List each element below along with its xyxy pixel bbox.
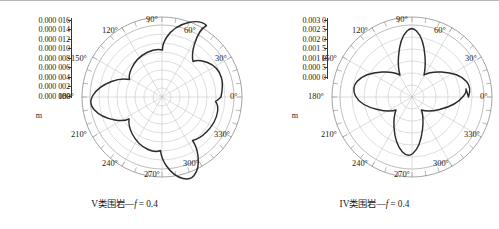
radial-axis-tickmark bbox=[68, 58, 71, 59]
radial-axis-tickmark bbox=[68, 77, 71, 78]
caption-variable-right: f bbox=[386, 199, 389, 209]
angle-label-330: 330° bbox=[464, 130, 480, 139]
angle-label-210: 210° bbox=[71, 130, 87, 139]
angle-label-0: 0° bbox=[480, 92, 488, 101]
radial-axis-tickmark bbox=[324, 29, 327, 30]
angle-label-210: 210° bbox=[321, 130, 337, 139]
radial-axis-spine bbox=[71, 18, 72, 98]
radial-axis-tickmark bbox=[68, 39, 71, 40]
angle-label-240: 240° bbox=[102, 159, 118, 168]
angle-label-300: 300° bbox=[433, 159, 449, 168]
radial-axis-tickmark bbox=[324, 77, 327, 78]
radial-axis-tickmark bbox=[68, 20, 71, 21]
caption-suffix-left: = 0.4 bbox=[139, 199, 158, 209]
radial-axis-tickmark bbox=[324, 20, 327, 21]
angle-label-60: 60° bbox=[184, 26, 196, 35]
angle-label-90: 90° bbox=[146, 15, 158, 24]
radial-axis-tickmark bbox=[68, 67, 71, 68]
angle-label-120: 120° bbox=[352, 26, 368, 35]
radial-axis-tickmark bbox=[68, 96, 71, 97]
angle-label-30: 30° bbox=[465, 54, 477, 63]
angle-label-300: 300° bbox=[183, 159, 199, 168]
caption-variable-left: f bbox=[134, 199, 137, 209]
polar-chart-panel-left: 0.000 0160.000 0140.000 0120.000 0100.00… bbox=[0, 0, 249, 229]
angle-label-270: 270° bbox=[394, 170, 410, 179]
angle-label-30: 30° bbox=[215, 54, 227, 63]
radial-axis-spine bbox=[327, 18, 328, 79]
radial-axis-tickmark bbox=[324, 48, 327, 49]
angle-label-0: 0° bbox=[230, 92, 238, 101]
caption-prefix-right: IV类围岩— bbox=[340, 199, 386, 209]
radial-axis-tickmark bbox=[68, 86, 71, 87]
angle-label-270: 270° bbox=[144, 170, 160, 179]
angle-label-120: 120° bbox=[102, 26, 118, 35]
radial-axis-tickmark bbox=[68, 48, 71, 49]
angle-label-330: 330° bbox=[214, 130, 230, 139]
radial-axis-tickmark bbox=[324, 39, 327, 40]
panel-caption-right: IV类围岩—f = 0.4 bbox=[250, 196, 499, 210]
caption-prefix-left: V类围岩— bbox=[91, 199, 134, 209]
radial-axis-tickmark bbox=[68, 29, 71, 30]
radial-axis-tickmark bbox=[324, 58, 327, 59]
angle-label-layer-right: 0° 30° 60° 90° 120° 150° 180° 210° 240° … bbox=[250, 0, 499, 229]
panel-caption-left: V类围岩—f = 0.4 bbox=[0, 196, 249, 210]
angle-label-60: 60° bbox=[434, 26, 446, 35]
angle-label-180: 180° bbox=[308, 92, 324, 101]
angle-label-90: 90° bbox=[396, 15, 408, 24]
caption-suffix-right: = 0.4 bbox=[390, 199, 409, 209]
radial-axis-tickmark bbox=[324, 67, 327, 68]
angle-label-150: 150° bbox=[71, 54, 87, 63]
polar-chart-panel-right: 0.003 00.002 50.002 00.001 50.001 00.000… bbox=[250, 0, 499, 229]
angle-label-layer-left: 0° 30° 60° 90° 120° 150° 180° 210° 240° … bbox=[0, 0, 249, 229]
angle-label-240: 240° bbox=[352, 159, 368, 168]
